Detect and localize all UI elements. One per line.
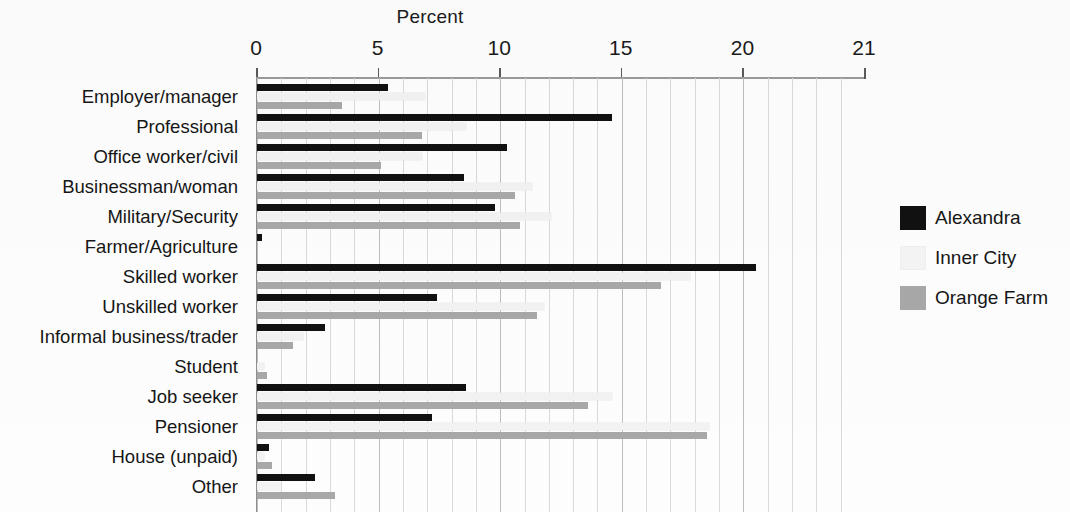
legend-item[interactable]: Inner City (900, 238, 1070, 278)
bar-innercity (257, 333, 303, 340)
legend-item[interactable]: Alexandra (900, 198, 1070, 238)
y-category-label: Unskilled worker (0, 292, 244, 322)
bar-orangefarm (257, 192, 515, 199)
bar-group (257, 412, 864, 442)
bar-orangefarm (257, 492, 335, 499)
bar-group (257, 442, 864, 472)
y-category-label: Other (0, 472, 244, 502)
y-axis-category-labels: Employer/managerProfessionalOffice worke… (0, 82, 244, 502)
y-category-label: House (unpaid) (0, 442, 244, 472)
x-tick-label: 0 (250, 36, 262, 60)
bar-alexandra (257, 264, 756, 271)
x-tick-label: 20 (731, 36, 754, 60)
x-tick-label: 15 (609, 36, 632, 60)
bar-innercity (257, 423, 709, 430)
bar-innercity (257, 363, 264, 370)
bar-innercity (257, 303, 544, 310)
y-category-label: Military/Security (0, 202, 244, 232)
bar-alexandra (257, 474, 315, 481)
bar-orangefarm (257, 222, 520, 229)
bar-chart: Percent 0510152021 Employer/managerProfe… (0, 0, 1070, 512)
bar-orangefarm (257, 342, 293, 349)
legend-item[interactable]: Orange Farm (900, 278, 1070, 318)
bar-alexandra (257, 204, 495, 211)
bar-innercity (257, 153, 422, 160)
x-tick-label: 5 (372, 36, 384, 60)
bar-group (257, 292, 864, 322)
bar-innercity (257, 123, 466, 130)
bar-orangefarm (257, 372, 267, 379)
bar-innercity (257, 273, 690, 280)
legend: AlexandraInner CityOrange Farm (900, 198, 1070, 318)
y-category-label: Informal business/trader (0, 322, 244, 352)
bar-group (257, 112, 864, 142)
bar-group (257, 262, 864, 292)
bar-alexandra (257, 174, 464, 181)
bar-innercity (257, 393, 612, 400)
x-tick-label: 21 (852, 36, 875, 60)
legend-swatch-icon (900, 246, 926, 270)
x-tick-mark (864, 68, 866, 79)
y-category-label: Skilled worker (0, 262, 244, 292)
bar-orangefarm (257, 402, 588, 409)
bar-group (257, 172, 864, 202)
bar-alexandra (257, 294, 437, 301)
bar-orangefarm (257, 432, 707, 439)
y-category-label: Professional (0, 112, 244, 142)
legend-label: Orange Farm (935, 287, 1048, 309)
bar-group (257, 142, 864, 172)
y-category-label: Pensioner (0, 412, 244, 442)
bar-alexandra (257, 384, 466, 391)
legend-swatch-icon (900, 286, 926, 310)
bar-alexandra (257, 84, 388, 91)
x-axis-tick-labels: 0510152021 (0, 36, 1070, 64)
y-category-label: Businessman/woman (0, 172, 244, 202)
bar-group (257, 352, 864, 382)
bar-orangefarm (257, 462, 272, 469)
y-category-label: Student (0, 352, 244, 382)
chart-title: Percent (0, 6, 860, 28)
bar-alexandra (257, 444, 269, 451)
bar-group (257, 202, 864, 232)
bar-orangefarm (257, 102, 342, 109)
y-category-label: Farmer/Agriculture (0, 232, 244, 262)
bar-orangefarm (257, 312, 537, 319)
legend-label: Inner City (935, 247, 1016, 269)
x-tick-label: 10 (488, 36, 511, 60)
bar-group (257, 472, 864, 502)
bar-innercity (257, 93, 425, 100)
bar-alexandra (257, 234, 262, 241)
bar-group (257, 82, 864, 112)
bar-innercity (257, 183, 532, 190)
bar-alexandra (257, 324, 325, 331)
bar-group (257, 382, 864, 412)
bar-series-container (257, 78, 864, 512)
bar-orangefarm (257, 282, 661, 289)
legend-label: Alexandra (935, 207, 1021, 229)
bar-innercity (257, 453, 264, 460)
bar-alexandra (257, 144, 507, 151)
bar-group (257, 232, 864, 262)
y-category-label: Employer/manager (0, 82, 244, 112)
legend-swatch-icon (900, 206, 926, 230)
bar-innercity (257, 213, 551, 220)
bar-group (257, 322, 864, 352)
bar-innercity (257, 483, 281, 490)
bar-alexandra (257, 114, 612, 121)
bar-orangefarm (257, 132, 422, 139)
y-category-label: Office worker/civil (0, 142, 244, 172)
y-category-label: Job seeker (0, 382, 244, 412)
bar-orangefarm (257, 162, 381, 169)
bar-alexandra (257, 414, 432, 421)
plot-area (256, 78, 864, 512)
